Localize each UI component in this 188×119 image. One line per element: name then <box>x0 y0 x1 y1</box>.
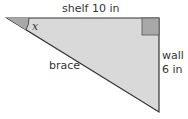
triangle <box>7 18 159 112</box>
brace-label: brace <box>49 60 80 72</box>
angle-x-label: x <box>32 20 38 33</box>
wall-length-label: 6 in <box>162 64 183 76</box>
angle-x-marker <box>7 18 29 30</box>
shelf-label: shelf 10 in <box>62 3 119 15</box>
wall-label: wall <box>162 50 184 62</box>
right-angle-marker <box>142 18 159 35</box>
triangle-diagram <box>0 0 188 119</box>
